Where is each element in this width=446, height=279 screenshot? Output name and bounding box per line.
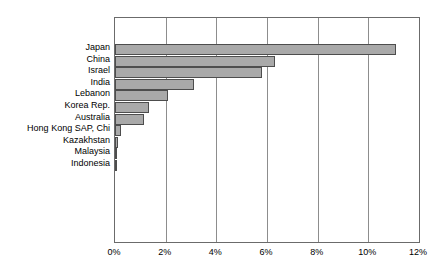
category-label: Lebanon: [0, 88, 110, 99]
bar-row[interactable]: [115, 125, 419, 136]
bar[interactable]: [115, 137, 118, 148]
bar[interactable]: [115, 79, 194, 90]
category-label: India: [0, 77, 110, 88]
y-axis-category-labels: JapanChinaIsraelIndiaLebanonKorea Rep.Au…: [0, 17, 110, 243]
bars-series: [115, 18, 419, 242]
bar-row[interactable]: [115, 137, 419, 148]
category-label: Malaysia: [0, 146, 110, 157]
bar[interactable]: [115, 114, 144, 125]
plot-area: [114, 17, 420, 243]
category-label: Australia: [0, 112, 110, 123]
x-tick-label: 10%: [358, 246, 376, 258]
x-tick-label: 8%: [310, 246, 323, 258]
category-label: Japan: [0, 42, 110, 53]
category-label: Korea Rep.: [0, 100, 110, 111]
bar[interactable]: [115, 148, 117, 159]
bar-row[interactable]: [115, 67, 419, 78]
bar[interactable]: [115, 56, 275, 67]
bar-row[interactable]: [115, 90, 419, 101]
category-label: China: [0, 54, 110, 65]
bar-row[interactable]: [115, 44, 419, 55]
x-tick-label: 12%: [409, 246, 427, 258]
bar[interactable]: [115, 160, 117, 171]
x-tick-label: 6%: [259, 246, 272, 258]
category-label: Kazakhstan: [0, 135, 110, 146]
bar[interactable]: [115, 44, 396, 55]
bar-row[interactable]: [115, 56, 419, 67]
category-label: Indonesia: [0, 158, 110, 169]
bar[interactable]: [115, 125, 121, 136]
x-tick-label: 2%: [158, 246, 171, 258]
x-tick-label: 4%: [209, 246, 222, 258]
bar-row[interactable]: [115, 79, 419, 90]
bar-row[interactable]: [115, 114, 419, 125]
bar-chart-figure: JapanChinaIsraelIndiaLebanonKorea Rep.Au…: [0, 0, 446, 279]
category-label: Hong Kong SAP, Chi: [0, 123, 110, 134]
bar-row[interactable]: [115, 160, 419, 171]
bar[interactable]: [115, 67, 262, 78]
category-label: Israel: [0, 65, 110, 76]
bar-row[interactable]: [115, 102, 419, 113]
x-tick-label: 0%: [107, 246, 120, 258]
bar[interactable]: [115, 90, 168, 101]
bar[interactable]: [115, 102, 149, 113]
x-axis-tick-labels: 0%2%4%6%8%10%12%: [0, 246, 446, 262]
bar-row[interactable]: [115, 148, 419, 159]
